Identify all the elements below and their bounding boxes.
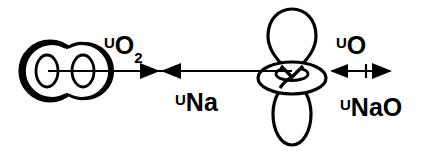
label-nao-symbol: U <box>340 96 351 113</box>
label-o-subscript: O <box>347 31 366 59</box>
label-o2-subscript-number: 2 <box>134 49 142 66</box>
label-nao-potential: UNaO <box>340 93 402 121</box>
potential-schematic-figure: UO2 UNa UO UNaO <box>0 0 437 156</box>
label-o-potential: UO <box>336 31 366 59</box>
label-na-symbol: U <box>175 91 186 108</box>
p-orbital-group <box>258 9 326 145</box>
nao-arrow-head-left <box>330 64 348 78</box>
diagram-canvas: UO2 UNa UO UNaO <box>0 0 437 156</box>
label-na-potential: UNa <box>175 88 219 116</box>
label-o2-subscript: O <box>115 31 134 59</box>
nao-arrow-head-right <box>372 63 392 79</box>
label-na-subscript: Na <box>186 88 219 116</box>
na-arrow-head <box>161 63 181 79</box>
label-o-symbol: U <box>336 34 347 51</box>
label-o2-symbol: U <box>104 34 115 51</box>
label-nao-subscript: NaO <box>351 93 402 121</box>
o2-arrow-head <box>140 63 160 79</box>
